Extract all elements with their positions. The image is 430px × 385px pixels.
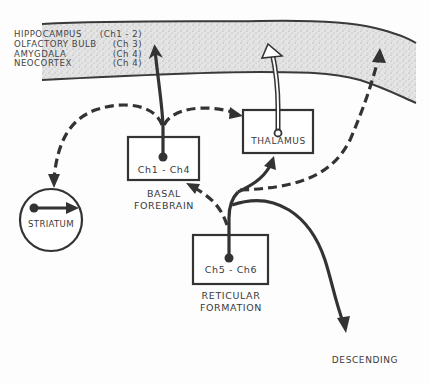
- reticular-caption-2: FORMATION: [183, 302, 279, 313]
- thalamus-label: THALAMUS: [243, 136, 314, 147]
- basal-forebrain-box-label: Ch1 - Ch4: [128, 164, 200, 175]
- basal-forebrain-caption-1: BASAL: [118, 188, 210, 199]
- basal-forebrain-caption-2: FOREBRAIN: [118, 200, 210, 211]
- reticular-caption-1: RETICULAR: [183, 290, 279, 301]
- list-item: NEOCORTEX(Ch 4): [14, 59, 142, 69]
- descending-projections-label: DESCENDING PROJECTIONS TO BRAINSTEM AND …: [300, 334, 430, 385]
- striatum-label: STRIATUM: [20, 219, 82, 230]
- cortex-target-list: HIPPOCAMPUS(Ch1 - 2) OLFACTORY BULB(Ch 3…: [14, 30, 142, 69]
- reticular-box-label: Ch5 - Ch6: [193, 264, 269, 275]
- cholinergic-pathways-diagram: HIPPOCAMPUS(Ch1 - 2) OLFACTORY BULB(Ch 3…: [0, 0, 430, 385]
